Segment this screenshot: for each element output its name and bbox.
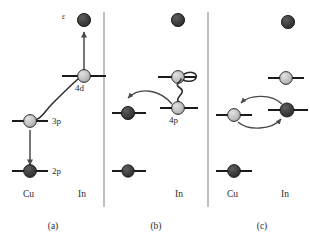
free-electron-c [281,15,294,28]
level-dot-cu-low-c [228,165,241,178]
element-label-in-a: In [78,189,86,199]
level-dot-in-upper-b [172,71,185,84]
level-dot-cu-low-b [122,165,134,177]
level-dot-in-upper-c [280,72,293,85]
free-electron-b [171,13,184,26]
label-cu-2p: 2p [52,166,62,176]
level-dot-in-4d [78,70,91,83]
element-label-in-c: In [281,189,289,199]
ejected-electron [77,13,90,26]
caption-a: (a) [48,221,59,232]
level-dot-in-mid-c [280,103,294,117]
level-dot-cu-mid-b [121,106,134,119]
element-label-cu-a: Cu [23,189,34,199]
level-dot-cu-3p [24,115,37,128]
label-in-4p: 4p [169,115,179,125]
level-dot-cu-2p [24,165,37,178]
level-dot-in-4p [172,102,185,115]
energy-level-figure: ε 4d 3p 2p Cu In (a) [0,0,310,241]
caption-c: (c) [257,221,268,232]
figure-canvas: ε 4d 3p 2p Cu In (a) [0,0,310,241]
caption-b: (b) [150,221,161,232]
label-cu-3p: 3p [52,116,62,126]
level-dot-cu-mid-c [228,109,241,122]
element-label-in-b: In [175,189,183,199]
element-label-cu-c: Cu [227,189,238,199]
label-in-4d: 4d [75,83,85,93]
